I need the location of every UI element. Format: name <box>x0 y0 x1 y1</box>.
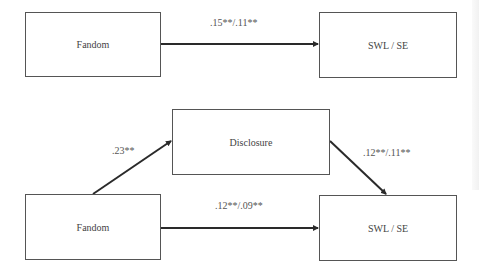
top-outcome-label: SWL / SE <box>368 40 408 51</box>
bottom-fandom-label: Fandom <box>77 222 110 233</box>
bottom-outcome-box: SWL / SE <box>319 195 457 261</box>
path-b-coefficient: .12**/.11** <box>363 147 410 158</box>
path-c-prime-coefficient: .12**/.09** <box>215 200 263 211</box>
top-fandom-label: Fandom <box>77 39 110 50</box>
top-outcome-box: SWL / SE <box>319 12 457 78</box>
top-fandom-box: Fandom <box>25 12 161 77</box>
top-path-coefficient: .15**/.11** <box>210 17 257 28</box>
path-a-coefficient: .23** <box>112 145 135 156</box>
disclosure-box: Disclosure <box>172 109 330 175</box>
bottom-outcome-label: SWL / SE <box>368 223 408 234</box>
disclosure-label: Disclosure <box>230 137 273 148</box>
bottom-fandom-box: Fandom <box>25 194 161 260</box>
